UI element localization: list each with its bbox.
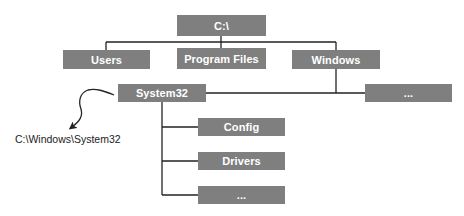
node-drivers: Drivers: [198, 152, 285, 170]
node-system32-label: System32: [136, 87, 188, 99]
node-root: C:\: [177, 15, 266, 36]
node-config: Config: [198, 118, 285, 136]
node-program-files-label: Program Files: [184, 53, 259, 65]
node-root-label: C:\: [214, 20, 229, 32]
node-users: Users: [63, 50, 150, 69]
node-system32-more: ...: [198, 186, 285, 204]
node-program-files: Program Files: [177, 48, 266, 69]
node-system32-more-label: ...: [237, 189, 246, 201]
node-drivers-label: Drivers: [222, 155, 261, 167]
node-windows: Windows: [292, 50, 380, 69]
node-users-label: Users: [91, 54, 122, 66]
system32-path-annotation: C:\Windows\System32: [15, 133, 121, 145]
node-system32: System32: [118, 84, 206, 102]
directory-tree-diagram: C:\ Users Program Files Windows System32…: [0, 0, 464, 216]
node-windows-more-label: ...: [404, 87, 413, 99]
annotation-arrow: [72, 89, 114, 127]
node-config-label: Config: [224, 121, 259, 133]
node-windows-more: ...: [365, 84, 452, 102]
node-windows-label: Windows: [312, 54, 361, 66]
